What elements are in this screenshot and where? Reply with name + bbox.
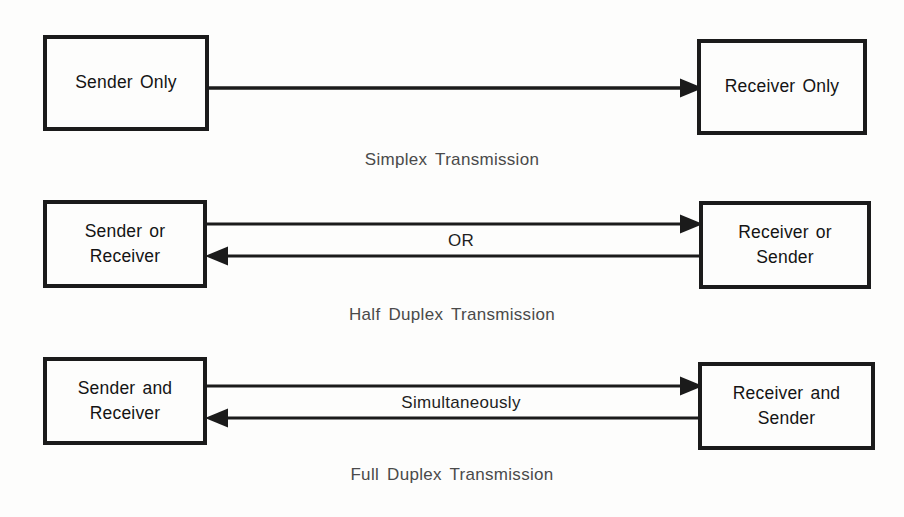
fullduplex-receiver-label-line-2: Sender — [758, 406, 816, 431]
halfduplex-sender-label-line-1: Sender or — [85, 219, 166, 244]
simplex-caption: Simplex Transmission — [252, 150, 652, 170]
fullduplex-sender-box: Sender and Receiver — [43, 357, 207, 445]
halfduplex-receiver-label-line-1: Receiver or — [738, 220, 832, 245]
fullduplex-edge-label: Simultaneously — [355, 394, 567, 411]
simplex-receiver-box: Receiver Only — [697, 39, 867, 135]
halfduplex-caption: Half Duplex Transmission — [252, 305, 652, 325]
simplex-sender-label-line-1: Sender Only — [75, 70, 176, 95]
fullduplex-receiver-label-line-1: Receiver and — [733, 381, 841, 406]
fullduplex-caption: Full Duplex Transmission — [252, 465, 652, 485]
simplex-receiver-label-line-1: Receiver Only — [725, 74, 840, 99]
halfduplex-sender-label-line-2: Receiver — [90, 244, 161, 269]
halfduplex-sender-box: Sender or Receiver — [43, 200, 207, 288]
transmission-modes-diagram: Sender Only Receiver Only Simplex Transm… — [0, 0, 904, 517]
fullduplex-receiver-box: Receiver and Sender — [698, 362, 875, 450]
halfduplex-receiver-label-line-2: Sender — [756, 245, 814, 270]
fullduplex-sender-label-line-1: Sender and — [78, 376, 173, 401]
fullduplex-sender-label-line-2: Receiver — [90, 401, 161, 426]
arrow-simplex-left-to-right — [207, 79, 703, 98]
simplex-sender-box: Sender Only — [43, 35, 209, 131]
halfduplex-receiver-box: Receiver or Sender — [699, 201, 871, 289]
halfduplex-edge-label: OR — [410, 232, 512, 249]
